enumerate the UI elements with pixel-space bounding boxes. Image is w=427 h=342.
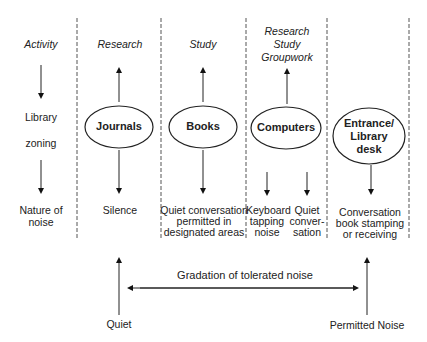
activity-study-2: Study — [250, 39, 324, 50]
row-label-library: Library — [12, 112, 70, 123]
zone-journals: Journals — [85, 121, 153, 132]
row-label-zoning: zoning — [12, 138, 70, 149]
row-label-noise: noise — [12, 217, 70, 228]
activity-groupwork: Groupwork — [250, 52, 324, 63]
zone-computers: Computers — [251, 122, 321, 133]
noise-silence: Silence — [85, 205, 155, 216]
row-label-activity: Activity — [12, 39, 70, 50]
gradation-label: Gradation of tolerated noise — [150, 270, 340, 281]
noise-noise: noise — [246, 227, 288, 238]
noise-or-receiving: or receiving — [330, 229, 410, 240]
zone-desk: desk — [333, 144, 405, 155]
gradation-quiet: Quiet — [95, 319, 143, 330]
gradation-permitted-noise: Permitted Noise — [320, 320, 414, 331]
activity-study: Study — [168, 39, 238, 50]
zone-library: Library — [333, 131, 405, 142]
row-label-nature-of: Nature of — [12, 205, 70, 216]
noise-designated-areas: designated areas — [160, 227, 248, 238]
zone-entrance: Entrance/ — [333, 118, 405, 129]
activity-research: Research — [85, 39, 155, 50]
zone-books: Books — [169, 121, 237, 132]
activity-research-2: Research — [250, 26, 324, 37]
diagram-lines — [0, 0, 427, 342]
noise-sation: sation — [288, 227, 326, 238]
